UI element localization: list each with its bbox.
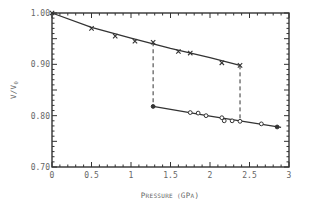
circle-marker [196,111,200,115]
data-series [50,11,281,129]
fit-line [52,13,240,65]
circle-marker [259,122,263,126]
circle-marker [275,125,279,129]
chart: 00.511.522.530.700.800.901.00 PRESSURE (… [0,0,312,211]
x-tick-label: 3 [287,171,292,180]
x-tick-label: 0 [50,171,55,180]
x-tick-label: 1 [129,171,134,180]
x-tick-label: 2.5 [242,171,257,180]
y-tick-label: 0.80 [31,112,50,121]
x-axis-title: PRESSURE (GPA) [141,191,199,200]
y-tick-label: 0.90 [31,60,50,69]
plot-border [52,13,289,167]
axis-ticks [52,13,289,167]
x-tick-label: 0.5 [84,171,99,180]
circle-marker [238,119,242,123]
y-axis-title: V/V0 [9,81,19,99]
axis-tick-labels: 00.511.522.530.700.800.901.00 [31,9,292,180]
circle-marker [222,119,226,123]
series-high-pressure [151,105,281,129]
plot-frame [52,13,289,167]
circle-marker [230,119,234,123]
circle-marker [204,114,208,118]
y-tick-label: 0.70 [31,163,50,172]
x-tick-label: 1.5 [163,171,178,180]
x-marker [113,34,117,38]
y-tick-label: 1.00 [31,9,50,18]
circle-marker [151,105,155,109]
series-low-pressure [50,11,242,68]
circle-marker [188,111,192,115]
x-tick-label: 2 [208,171,213,180]
